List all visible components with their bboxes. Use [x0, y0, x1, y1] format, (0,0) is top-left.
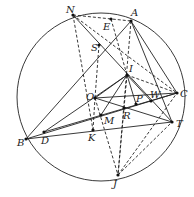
segment-oj	[95, 98, 118, 175]
label-t: T	[176, 118, 184, 129]
label-b: B	[16, 137, 24, 148]
segment-jt	[118, 122, 172, 175]
point-a	[129, 19, 132, 22]
label-p: P	[135, 93, 143, 104]
label-o: O	[86, 91, 94, 102]
point-s	[97, 43, 100, 46]
label-a: A	[130, 7, 138, 18]
solid-lines	[26, 15, 177, 139]
label-w: W	[150, 89, 161, 100]
label-s: S	[91, 42, 98, 53]
segment-jc	[118, 93, 177, 175]
point-t	[170, 120, 173, 123]
point-b	[24, 137, 27, 140]
label-r: R	[122, 110, 131, 121]
label-d: D	[40, 135, 49, 146]
label-e: E	[102, 21, 111, 32]
label-c: C	[180, 88, 188, 99]
label-n: N	[65, 4, 76, 15]
segment-nk	[73, 15, 93, 130]
point-c	[175, 91, 178, 94]
point-d	[42, 130, 45, 133]
label-j: J	[111, 178, 118, 189]
geometry-diagram: NAESIOCWPRMKTBDJ	[0, 0, 194, 197]
segment-ij	[118, 75, 127, 175]
label-m: M	[103, 115, 115, 126]
label-k: K	[87, 132, 96, 143]
point-j	[116, 173, 119, 176]
segment-ab	[26, 21, 131, 139]
point-labels: NAESIOCWPRMKTBDJ	[16, 4, 188, 189]
segment-ei	[111, 19, 127, 75]
segment-di	[44, 75, 127, 132]
point-m	[99, 113, 102, 116]
label-i: I	[128, 63, 134, 74]
segment-nc	[73, 15, 177, 93]
segment-ko	[93, 98, 95, 130]
segment-at	[131, 21, 172, 122]
